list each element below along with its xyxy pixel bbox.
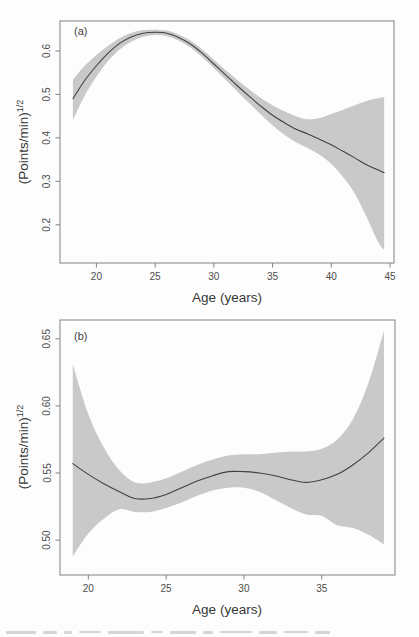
y-tick-label: 0.6 [42, 44, 53, 58]
y-tick-label: 0.55 [42, 463, 53, 483]
text-smudge [43, 631, 57, 634]
text-smudge [108, 631, 144, 634]
chart-b-plot: 202530350.500.550.600.65 [0, 300, 419, 600]
cropped-caption-fragment [6, 631, 413, 635]
chart-panel-a: 2025303540450.20.30.40.50.6 (a) (Points/… [0, 0, 419, 300]
y-axis-label-a: (Points/min)1/2 [15, 100, 32, 185]
y-axis-label-a-text: (Points/min) [16, 112, 31, 184]
x-axis-label-b: Age (years) [192, 602, 262, 617]
y-tick-label: 0.2 [42, 217, 53, 231]
text-smudge [315, 631, 330, 634]
text-smudge [170, 631, 196, 634]
panel-label-b: (b) [74, 330, 87, 342]
text-smudge [284, 631, 308, 633]
figure-page: 2025303540450.20.30.40.50.6 (a) (Points/… [0, 0, 419, 637]
confidence-band [73, 331, 384, 556]
x-tick-label: 30 [208, 271, 220, 282]
y-axis-label-b: (Points/min)1/2 [15, 405, 32, 490]
x-tick-label: 45 [384, 271, 396, 282]
text-smudge [6, 631, 36, 634]
y-tick-label: 0.65 [42, 329, 53, 349]
confidence-band [73, 30, 384, 250]
x-tick-label: 25 [161, 583, 173, 594]
text-smudge [64, 631, 72, 634]
y-tick-label: 0.60 [42, 396, 53, 416]
x-tick-label: 30 [238, 583, 250, 594]
x-tick-label: 35 [316, 583, 328, 594]
text-smudge [151, 631, 163, 633]
x-tick-label: 35 [267, 271, 279, 282]
y-axis-label-a-exponent: 1/2 [15, 100, 25, 113]
panel-label-a: (a) [74, 25, 87, 37]
x-tick-label: 25 [150, 271, 162, 282]
chart-a-plot: 2025303540450.20.30.40.50.6 [0, 0, 419, 300]
x-tick-label: 20 [91, 271, 103, 282]
text-smudge [79, 631, 101, 633]
y-axis-label-b-exponent: 1/2 [15, 405, 25, 418]
y-tick-label: 0.50 [42, 530, 53, 550]
y-tick-label: 0.5 [42, 87, 53, 101]
y-tick-label: 0.3 [42, 174, 53, 188]
chart-panel-b: 202530350.500.550.600.65 (b) (Points/min… [0, 300, 419, 630]
text-smudge [220, 631, 252, 633]
text-smudge [203, 631, 213, 634]
text-smudge [259, 631, 277, 634]
x-tick-label: 20 [83, 583, 95, 594]
y-tick-label: 0.4 [42, 130, 53, 144]
y-axis-label-b-text: (Points/min) [16, 417, 31, 489]
x-tick-label: 40 [326, 271, 338, 282]
